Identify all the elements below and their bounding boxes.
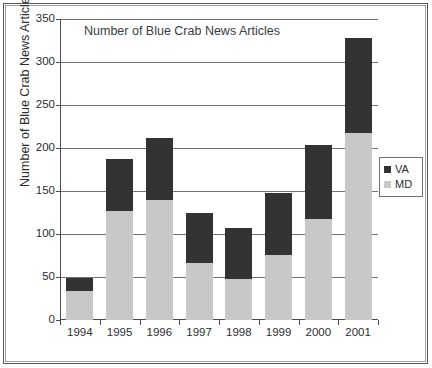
x-axis-tick — [338, 320, 339, 325]
x-axis-tick — [179, 320, 180, 325]
bar-segment-md — [305, 219, 332, 320]
x-axis-tick-label: 1996 — [147, 326, 173, 338]
bar-segment-md — [225, 279, 252, 320]
bar-series-layer — [60, 19, 378, 320]
bar-group — [265, 19, 292, 320]
bar-segment-va — [66, 278, 93, 291]
y-axis-tick-label: 50 — [27, 271, 55, 283]
bar-group — [305, 19, 332, 320]
bar-segment-va — [146, 138, 173, 200]
x-axis-tick — [60, 320, 61, 325]
bar-group — [186, 19, 213, 320]
y-axis-tick-label: 0 — [27, 314, 55, 326]
x-axis-tick — [219, 320, 220, 325]
y-axis-tick-label: 100 — [27, 228, 55, 240]
bar-segment-va — [225, 228, 252, 279]
x-axis-tick-label: 1999 — [266, 326, 292, 338]
x-axis-tick-label: 2001 — [345, 326, 371, 338]
bar-segment-va — [186, 213, 213, 264]
chart-screenshot: Number of Blue Crab News Articles Number… — [0, 0, 432, 368]
y-axis-tick-label: 200 — [27, 142, 55, 154]
x-axis-tick — [100, 320, 101, 325]
x-axis-tick — [259, 320, 260, 325]
legend-item: MD — [384, 177, 419, 192]
x-axis-tick-label: 1995 — [107, 326, 133, 338]
bar-group — [66, 19, 93, 320]
legend-swatch-icon — [384, 166, 391, 173]
y-axis-tick-label: 300 — [27, 56, 55, 68]
x-axis-tick — [299, 320, 300, 325]
bar-segment-md — [106, 211, 133, 320]
bar-segment-md — [66, 291, 93, 320]
bar-segment-md — [345, 133, 372, 320]
bar-segment-md — [146, 200, 173, 320]
y-axis-tick-label: 250 — [27, 99, 55, 111]
y-axis-tick-labels: 050100150200250300350 — [22, 19, 55, 320]
bar-segment-md — [186, 263, 213, 320]
x-axis-tick-label: 1994 — [67, 326, 93, 338]
bar-group — [106, 19, 133, 320]
bar-segment-va — [345, 38, 372, 133]
bar-segment-md — [265, 255, 292, 320]
bar-group — [345, 19, 372, 320]
x-axis-tick-labels: 19941995199619971998199920002001 — [60, 326, 378, 344]
x-axis-tick-label: 2000 — [306, 326, 332, 338]
bar-segment-va — [265, 193, 292, 255]
y-axis-tick-label: 350 — [27, 13, 55, 25]
bar-segment-va — [305, 145, 332, 220]
bar-segment-va — [106, 159, 133, 211]
bar-group — [225, 19, 252, 320]
legend-item-label: MD — [395, 179, 412, 190]
legend-item: VA — [384, 162, 419, 177]
bar-group — [146, 19, 173, 320]
legend-item-label: VA — [395, 164, 409, 175]
legend-swatch-icon — [384, 181, 391, 188]
x-axis-tick — [140, 320, 141, 325]
y-axis-tick-label: 150 — [27, 185, 55, 197]
x-axis-tick — [378, 320, 379, 325]
x-axis-tick-label: 1998 — [226, 326, 252, 338]
x-axis-tick-label: 1997 — [186, 326, 212, 338]
chart-legend: VAMD — [379, 157, 423, 197]
